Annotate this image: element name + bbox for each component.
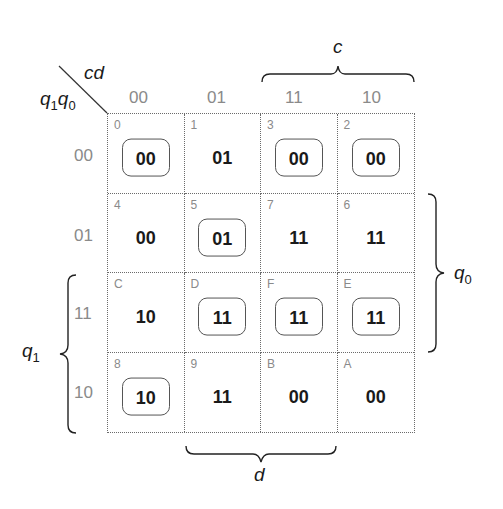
- cell-index: 6: [344, 198, 351, 212]
- c-brace-label: c: [333, 36, 343, 58]
- row-var-q0-sub: 0: [68, 98, 75, 113]
- cell-value: 00: [352, 139, 400, 177]
- kmap-cell: 501: [185, 194, 262, 274]
- cell-value: 11: [352, 298, 400, 336]
- col-header-11: 11: [285, 88, 303, 108]
- kmap-cell: 911: [185, 353, 262, 433]
- row-variables-label: q1q0: [40, 88, 76, 113]
- cell-value: 00: [122, 218, 170, 256]
- cell-index: F: [267, 277, 274, 291]
- cell-index: 2: [344, 118, 351, 132]
- row-header-00: 00: [74, 146, 93, 166]
- row-var-q1: q: [40, 88, 51, 109]
- cell-value: 01: [198, 139, 246, 177]
- cell-value: 11: [275, 298, 323, 336]
- cell-value: 00: [275, 378, 323, 416]
- cell-index: 8: [114, 357, 121, 371]
- q1-var: q: [22, 340, 33, 361]
- d-brace-label: d: [254, 464, 265, 486]
- q0-brace-icon: [424, 192, 448, 356]
- cell-index: 0: [114, 118, 121, 132]
- cell-index: B: [267, 357, 275, 371]
- cell-index: D: [191, 277, 200, 291]
- kmap-cell: B00: [261, 353, 338, 433]
- kmap-cell: E11: [338, 273, 415, 353]
- cell-index: 7: [267, 198, 274, 212]
- cell-value: 00: [122, 139, 170, 177]
- cell-value: 11: [275, 218, 323, 256]
- kmap-cell: 711: [261, 194, 338, 274]
- kmap-cell: 611: [338, 194, 415, 274]
- kmap-cell: F11: [261, 273, 338, 353]
- q1-brace-icon: [56, 273, 80, 437]
- d-brace-icon: [184, 444, 342, 466]
- kmap-cell: 200: [338, 114, 415, 194]
- kmap-cell: C10: [108, 273, 185, 353]
- q0-var: q: [454, 262, 465, 283]
- q1-brace-label: q1: [22, 340, 40, 365]
- row-var-q1-sub: 1: [51, 98, 58, 113]
- row-var-q0: q: [58, 88, 69, 109]
- cell-value: 00: [352, 378, 400, 416]
- q0-sub: 0: [465, 272, 472, 287]
- cell-value: 11: [198, 298, 246, 336]
- col-header-00: 00: [129, 88, 148, 108]
- cell-index: A: [344, 357, 352, 371]
- kmap-cell: A00: [338, 353, 415, 433]
- cell-index: 1: [191, 118, 198, 132]
- row-header-01: 01: [74, 226, 93, 246]
- column-variables-label: cd: [84, 62, 104, 84]
- cell-value: 10: [122, 298, 170, 336]
- cell-value: 11: [198, 378, 246, 416]
- cell-index: 9: [191, 357, 198, 371]
- kmap-cell: 101: [185, 114, 262, 194]
- kmap-cell: 810: [108, 353, 185, 433]
- kmap-cell: 300: [261, 114, 338, 194]
- cell-index: 5: [191, 198, 198, 212]
- q0-brace-label: q0: [454, 262, 472, 287]
- c-brace-icon: [260, 62, 418, 84]
- kmap-cell: 400: [108, 194, 185, 274]
- cell-index: C: [114, 277, 123, 291]
- cell-value: 10: [122, 378, 170, 416]
- cell-index: 3: [267, 118, 274, 132]
- cell-value: 01: [198, 218, 246, 256]
- col-header-01: 01: [207, 88, 226, 108]
- cell-value: 11: [352, 218, 400, 256]
- cell-index: 4: [114, 198, 121, 212]
- cell-index: E: [344, 277, 352, 291]
- kmap-cell: 000: [108, 114, 185, 194]
- karnaugh-map-grid: 000 101 300 200 400 501 711 611 C10 D11 …: [107, 113, 415, 433]
- kmap-cell: D11: [185, 273, 262, 353]
- q1-sub: 1: [33, 350, 40, 365]
- col-header-10: 10: [362, 88, 381, 108]
- cell-value: 00: [275, 139, 323, 177]
